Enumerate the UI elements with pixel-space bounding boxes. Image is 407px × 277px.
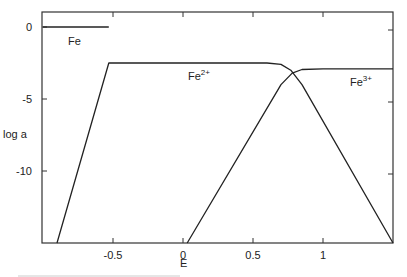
- y-tick-label: -10: [16, 165, 32, 177]
- x-tick-label: -0.5: [104, 249, 123, 261]
- y-tick-label: 0: [26, 21, 32, 33]
- x-axis-label: E: [180, 257, 187, 269]
- series-line-fe2plus: [57, 63, 393, 243]
- series-label: Fe: [68, 35, 81, 47]
- series-line-fe3plus: [187, 69, 393, 243]
- chart: -0.500.510-5-10 FeFe2+Fe3+ E log a: [0, 0, 407, 277]
- plot-frame: [42, 12, 393, 243]
- data-series: FeFe2+Fe3+: [43, 27, 393, 243]
- series-label: Fe2+: [188, 68, 210, 82]
- x-tick-label: 0.5: [245, 249, 260, 261]
- axis-labels: E log a: [3, 128, 187, 269]
- series-label: Fe3+: [350, 74, 372, 88]
- y-axis-label: log a: [3, 128, 28, 140]
- axis-ticks: -0.500.510-5-10: [16, 12, 393, 261]
- y-tick-label: -5: [22, 93, 32, 105]
- x-tick-label: 1: [320, 249, 326, 261]
